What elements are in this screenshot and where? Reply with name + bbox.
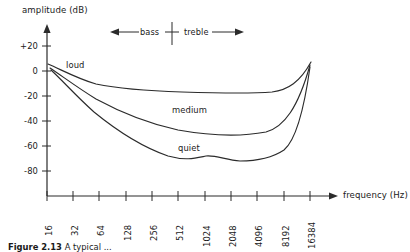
bass-label: bass	[140, 27, 159, 37]
x-tick-label-256: 256	[149, 225, 159, 241]
x-tick-label-4096: 4096	[254, 225, 264, 247]
arrow-right-icon	[235, 28, 244, 35]
x-tick-label-128: 128	[123, 225, 133, 241]
curve-label-quiet: quiet	[178, 143, 200, 153]
y-tick-label-minus60: -60	[8, 141, 38, 151]
x-axis-title: frequency (Hz)	[343, 190, 408, 200]
curve-label-medium: medium	[172, 105, 207, 115]
treble-label: treble	[184, 27, 209, 37]
x-tick-label-2048: 2048	[228, 225, 238, 247]
figure-caption: Figure 2.13 A typical ...	[8, 242, 112, 252]
y-tick-label-20: +20	[8, 41, 38, 51]
x-tick-label-32: 32	[70, 225, 80, 236]
x-tick-label-16: 16	[44, 225, 54, 236]
x-tick-label-64: 64	[96, 225, 106, 236]
y-tick-label-minus40: -40	[8, 116, 38, 126]
y-tick-label-minus80: -80	[8, 166, 38, 176]
curve-label-loud: loud	[66, 60, 84, 70]
figure-caption-number: Figure 2.13	[8, 242, 62, 252]
curve-medium	[50, 65, 310, 135]
curve-loud	[48, 62, 311, 93]
x-tick-label-8192: 8192	[281, 225, 291, 247]
x-axis-group	[47, 192, 338, 199]
y-tick-label-minus20: -20	[8, 91, 38, 101]
arrow-left-icon	[110, 28, 119, 35]
bass-treble-annotation	[110, 22, 244, 45]
figure-caption-text: A typical ...	[65, 242, 112, 252]
y-axis-group	[43, 24, 50, 196]
x-tick-label-512: 512	[175, 225, 185, 241]
x-tick-label-16384: 16384	[307, 222, 317, 249]
arrow-up-icon	[43, 24, 50, 33]
x-tick-label-1024: 1024	[202, 225, 212, 247]
y-axis-title: amplitude (dB)	[22, 5, 88, 15]
y-tick-label-0: 0	[8, 66, 38, 76]
arrow-right-icon	[329, 192, 338, 199]
